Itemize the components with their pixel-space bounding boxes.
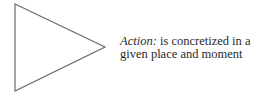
action-description-line1: is concretized in a: [157, 34, 251, 48]
action-label: Action: is concretized in a given place …: [120, 35, 264, 61]
action-term: Action:: [120, 34, 157, 48]
action-description-line2: given place and moment: [120, 47, 243, 61]
